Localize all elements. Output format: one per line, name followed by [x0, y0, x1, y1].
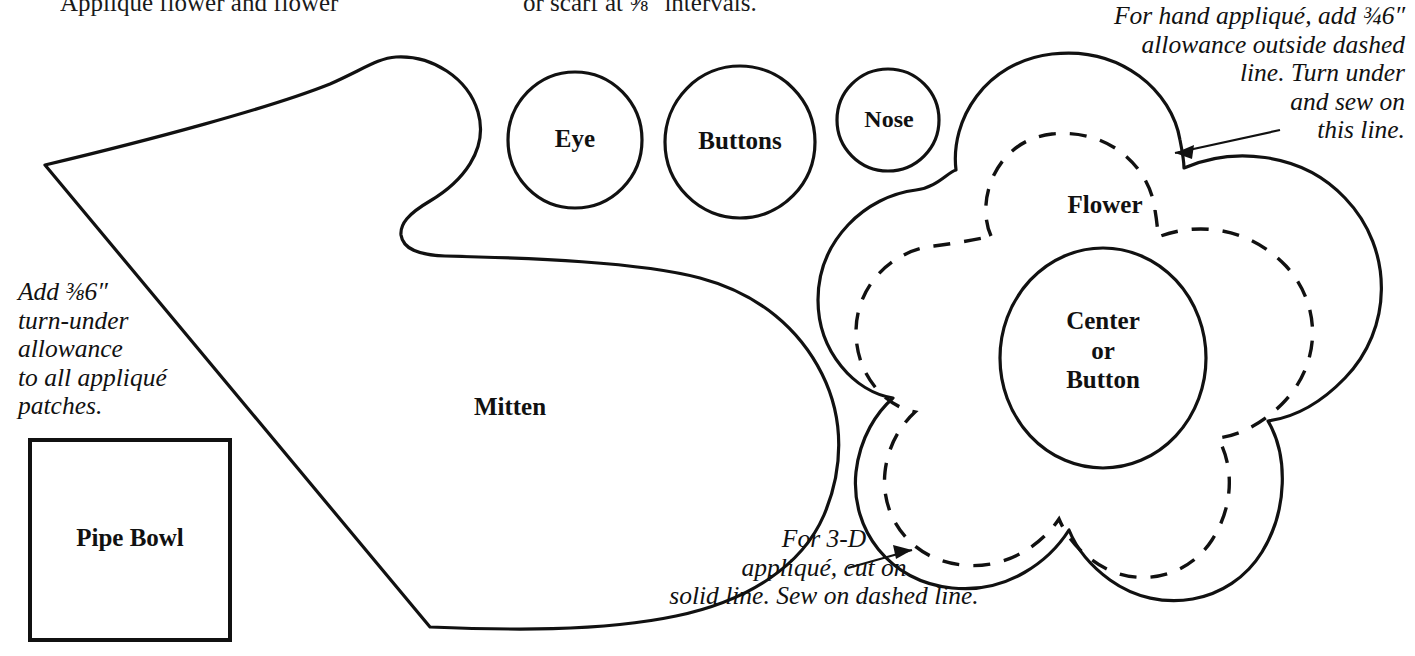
clipped-heading-left: Appliqué flower and flower: [60, 0, 480, 17]
piece-label-mitten: Mitten: [425, 392, 595, 422]
note-3d-applique: For 3-D appliqué, cut on solid line. Sew…: [628, 525, 1020, 611]
clipped-heading-right: or scarf at ⅝" intervals.: [523, 0, 923, 17]
piece-label-buttons: Buttons: [664, 126, 816, 156]
note-turn-under-allowance: Add ⅜6″ turn-under allowance to all appl…: [18, 278, 218, 421]
piece-label-pipe-bowl: Pipe Bowl: [30, 523, 230, 553]
piece-label-center-or-button: Center or Button: [1002, 306, 1204, 395]
piece-label-eye: Eye: [508, 124, 642, 154]
note-hand-applique: For hand appliqué, add ¾6″ allowance out…: [1040, 2, 1405, 145]
pattern-sheet: Appliqué flower and flower or scarf at ⅝…: [0, 0, 1415, 656]
piece-label-flower: Flower: [1010, 190, 1200, 220]
piece-label-nose: Nose: [838, 105, 940, 133]
